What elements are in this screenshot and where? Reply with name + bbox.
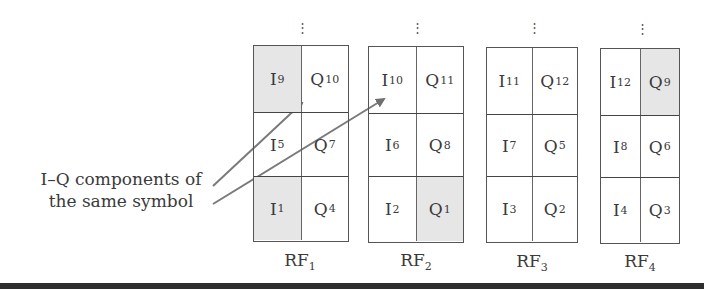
caption-label: I–Q components of the same symbol (26, 168, 216, 212)
rf3-row-1: I11 Q12 (487, 48, 577, 114)
cell-I9: I9 (254, 46, 302, 112)
cell-Q6: Q6 (641, 116, 680, 177)
rf4-block: I12 Q9 I8 Q6 I4 Q3 (600, 48, 680, 244)
cell-I7: I7 (487, 115, 533, 176)
cell-Q5: Q5 (533, 115, 578, 176)
cell-I11: I11 (487, 48, 533, 114)
rf3-block: I11 Q12 I7 Q5 I3 Q2 (486, 47, 578, 243)
cell-Q3: Q3 (641, 178, 680, 242)
continuation-marker-rf1: ⋮ (296, 26, 306, 30)
rf1-label: RF1 (270, 250, 330, 273)
cell-I4: I4 (601, 178, 641, 242)
cell-I1: I1 (254, 177, 302, 240)
cell-I2: I2 (369, 177, 417, 241)
rf4-row-1: I12 Q9 (601, 49, 679, 115)
cell-Q4: Q4 (302, 177, 349, 240)
rf2-block: I10 Q11 I6 Q8 I2 Q1 (368, 46, 464, 243)
cell-I3: I3 (487, 177, 533, 241)
rf1-row-1: I9 Q10 (254, 46, 348, 112)
cell-Q12: Q12 (533, 48, 578, 114)
rf1-row-3: I1 Q4 (254, 176, 348, 240)
cell-Q11: Q11 (417, 47, 464, 113)
cell-I12: I12 (601, 49, 641, 115)
rf3-row-2: I7 Q5 (487, 114, 577, 176)
cell-I6: I6 (369, 114, 417, 176)
rf2-label: RF2 (386, 250, 446, 273)
caption-line-2: the same symbol (26, 190, 216, 212)
rf2-row-2: I6 Q8 (369, 113, 463, 176)
cell-I8: I8 (601, 116, 641, 177)
continuation-marker-rf4: ⋮ (636, 27, 646, 31)
cell-Q9: Q9 (641, 49, 680, 115)
caption-line-1: I–Q components of (26, 168, 216, 190)
rf2-row-3: I2 Q1 (369, 176, 463, 241)
bottom-divider-bar (0, 283, 704, 289)
continuation-marker-rf2: ⋮ (411, 26, 421, 30)
rf3-row-3: I3 Q2 (487, 176, 577, 241)
rf4-label: RF4 (610, 251, 670, 274)
cell-Q8: Q8 (417, 114, 464, 176)
cell-I5: I5 (254, 113, 302, 176)
rf1-block: I9 Q10 I5 Q7 I1 Q4 (253, 45, 349, 242)
arrows-layer (0, 0, 704, 289)
rf4-row-2: I8 Q6 (601, 115, 679, 177)
cell-Q2: Q2 (533, 177, 578, 241)
cell-Q10: Q10 (302, 46, 349, 112)
rf4-row-3: I4 Q3 (601, 177, 679, 242)
continuation-marker-rf3: ⋮ (528, 26, 538, 30)
cell-I10: I10 (369, 47, 417, 113)
rf2-row-1: I10 Q11 (369, 47, 463, 113)
rf1-row-2: I5 Q7 (254, 112, 348, 176)
cell-Q1: Q1 (417, 177, 464, 241)
cell-Q7: Q7 (302, 113, 349, 176)
rf3-label: RF3 (502, 251, 562, 274)
